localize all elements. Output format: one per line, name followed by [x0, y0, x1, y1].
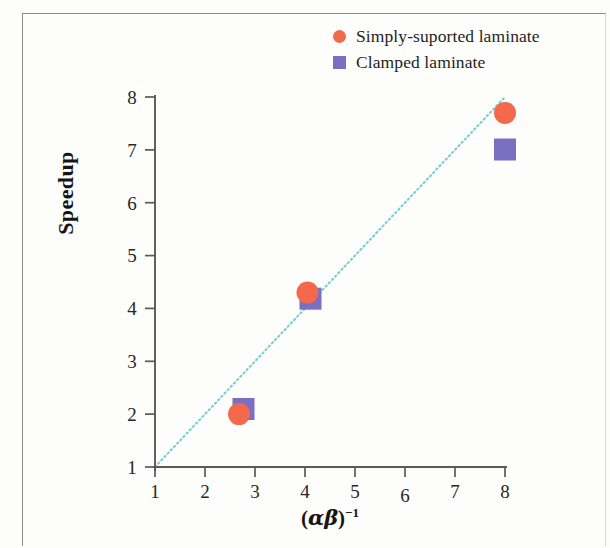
y-tick-label-1: 1 [127, 457, 137, 478]
x-tick-label-7: 7 [450, 481, 460, 502]
plot-svg: 1 2 3 4 5 6 7 8 1 2 [0, 0, 610, 548]
x-tick-label-5: 5 [350, 481, 360, 502]
x-axis-ticks [155, 467, 505, 477]
x-tick-label-6: 6 [400, 485, 410, 506]
y-tick-label-8: 8 [127, 87, 137, 108]
x-tick-label-3: 3 [250, 481, 260, 502]
x-axis-title-open-paren: ( [301, 506, 308, 530]
data-point-simply-supported-1 [228, 403, 250, 425]
x-tick-label-2: 2 [200, 481, 210, 502]
y-axis-tick-labels: 1 2 3 4 5 6 7 8 [127, 87, 137, 478]
data-point-simply-supported-2 [297, 282, 319, 304]
ideal-reference-line [155, 97, 505, 467]
series-clamped-laminate [233, 139, 517, 421]
y-tick-label-7: 7 [127, 140, 137, 161]
x-tick-label-4: 4 [300, 481, 310, 502]
x-tick-label-8: 8 [500, 481, 510, 502]
x-axis-title: (αβ)−1 [250, 505, 410, 531]
y-tick-label-2: 2 [127, 404, 137, 425]
y-tick-label-6: 6 [127, 193, 137, 214]
x-axis-tick-labels: 1 2 3 4 5 6 7 8 [150, 481, 510, 506]
y-tick-label-3: 3 [127, 351, 137, 372]
figure-container: Simply-suported laminate Clamped laminat… [0, 0, 610, 548]
y-tick-label-5: 5 [127, 245, 137, 266]
x-tick-label-1: 1 [150, 481, 160, 502]
y-axis-ticks [145, 97, 155, 467]
y-axis-title: Speedup [53, 103, 79, 283]
data-point-simply-supported-3 [494, 102, 516, 124]
y-tick-label-4: 4 [127, 298, 137, 319]
scatter-plot: 1 2 3 4 5 6 7 8 1 2 [0, 0, 610, 548]
x-axis-title-alpha: α [308, 505, 324, 530]
x-axis-title-exponent: −1 [345, 505, 359, 520]
x-axis-title-beta: β [324, 505, 338, 530]
data-point-clamped-3 [494, 139, 516, 161]
series-simply-supported-laminate [228, 102, 516, 425]
